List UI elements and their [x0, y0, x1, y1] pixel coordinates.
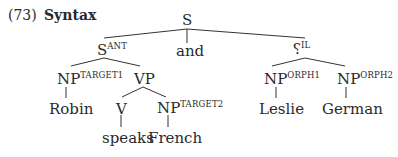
- node-il: ?IL: [293, 42, 310, 57]
- node-feature: ANT: [107, 41, 127, 51]
- node-np-target2: NPTARGET2: [157, 101, 223, 116]
- node-feature: TARGET2: [180, 99, 223, 109]
- node-v: V: [116, 102, 127, 117]
- node-np-orph2: NPORPH2: [337, 72, 393, 87]
- node-feature: ORPH2: [360, 70, 393, 80]
- node-s-root: S: [182, 13, 192, 28]
- node-label: ?: [293, 42, 301, 57]
- node-label: NP: [157, 99, 180, 117]
- node-np-target1: NPTARGET1: [57, 72, 123, 87]
- leaf-robin: Robin: [49, 102, 93, 117]
- node-vp: VP: [134, 72, 155, 87]
- node-np-orph1: NPORPH1: [264, 72, 320, 87]
- example-title: Syntax: [44, 8, 96, 22]
- node-label: NP: [337, 70, 360, 88]
- leaf-speaks: speaks: [102, 131, 154, 146]
- leaf-french: French: [148, 131, 202, 146]
- node-label: NP: [57, 70, 80, 88]
- node-label: S: [97, 41, 107, 59]
- node-label: NP: [264, 70, 287, 88]
- node-feature: IL: [301, 40, 310, 50]
- node-s-ant: SANT: [97, 43, 127, 58]
- leaf-leslie: Leslie: [259, 102, 304, 117]
- leaf-german: German: [322, 102, 383, 117]
- node-feature: ORPH1: [287, 70, 320, 80]
- node-label: S: [182, 11, 192, 29]
- node-conj-and: and: [176, 44, 204, 59]
- node-feature: TARGET1: [80, 70, 123, 80]
- example-number: (73): [8, 8, 37, 22]
